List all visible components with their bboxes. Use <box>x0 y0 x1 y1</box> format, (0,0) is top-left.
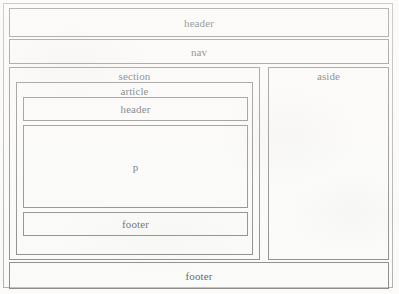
block-nav: nav <box>9 39 389 64</box>
block-article-footer-label: footer <box>24 218 247 231</box>
block-article: article header p footer <box>16 82 253 255</box>
block-aside-label: aside <box>269 70 388 83</box>
block-paragraph: p <box>23 125 248 208</box>
block-paragraph-label: p <box>24 160 247 173</box>
block-article-header-label: header <box>24 103 247 116</box>
block-footer: footer <box>9 262 389 289</box>
block-article-header: header <box>23 97 248 121</box>
block-section: section article header p footer <box>9 67 260 260</box>
diagram-outer-frame: header nav section article header p foot… <box>3 3 393 288</box>
block-article-footer: footer <box>23 212 248 236</box>
block-footer-label: footer <box>10 269 388 282</box>
block-nav-label: nav <box>10 45 388 58</box>
block-header-label: header <box>10 16 388 29</box>
block-aside: aside <box>268 67 389 260</box>
block-header: header <box>9 8 389 37</box>
